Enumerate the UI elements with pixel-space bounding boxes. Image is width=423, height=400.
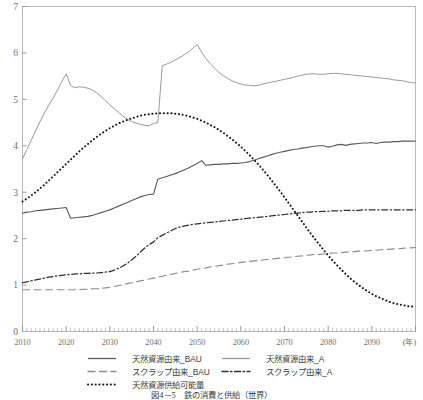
x-tick-label: 2060: [233, 338, 249, 347]
x-tick-label: 2050: [189, 338, 205, 347]
y-tick-label: 7: [13, 2, 18, 12]
series-line-3: [23, 210, 416, 283]
caption-text: 図4－5 鉄の消費と供給（世界）: [151, 390, 271, 400]
chart-legend: 天然資源由来_BAU天然資源由来_Aスクラップ由来_BAUスクラップ由来_A天然…: [88, 354, 333, 390]
figure-caption: 図4－5 鉄の消費と供給（世界）: [151, 390, 271, 400]
figure-container: 01234567 2010202020302040205020602070208…: [0, 0, 423, 400]
chart-canvas: 01234567 2010202020302040205020602070208…: [0, 0, 423, 400]
legend-label-3: スクラップ由来_A: [266, 367, 333, 377]
x-axis: 201020202030204020502060207020802090(年): [14, 326, 416, 347]
y-tick-label: 4: [13, 141, 18, 151]
y-tick-label: 2: [13, 234, 18, 244]
y-axis: 01234567: [13, 2, 26, 337]
legend-label-4: 天然資源供給可能量: [132, 380, 204, 390]
x-axis-unit-label: (年): [403, 337, 417, 347]
x-tick-label: 2020: [58, 338, 74, 347]
y-tick-label: 6: [13, 48, 18, 58]
y-tick-label: 3: [13, 188, 18, 198]
legend-label-1: 天然資源由来_A: [266, 354, 325, 364]
legend-label-0: 天然資源由来_BAU: [132, 354, 202, 364]
x-tick-label: 2010: [14, 338, 30, 347]
y-tick-label: 0: [13, 327, 18, 337]
x-tick-label: 2080: [320, 338, 336, 347]
y-tick-label: 5: [13, 95, 18, 105]
series-line-0: [23, 141, 416, 218]
x-tick-label: 2030: [102, 338, 118, 347]
y-tick-label: 1: [13, 280, 18, 290]
x-tick-label: 2040: [145, 338, 161, 347]
x-tick-label: 2090: [364, 338, 380, 347]
legend-label-2: スクラップ由来_BAU: [132, 367, 210, 377]
x-tick-label: 2070: [276, 338, 292, 347]
series-line-1: [23, 45, 416, 159]
series-layer: [23, 45, 416, 307]
